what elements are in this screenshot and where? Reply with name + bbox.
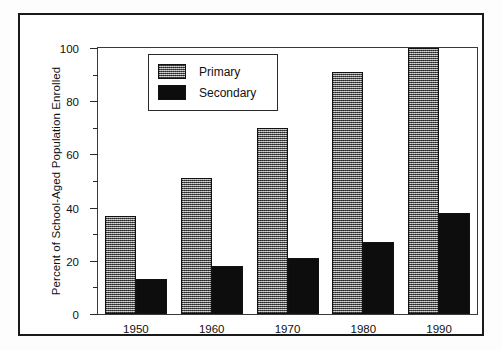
- bar-primary-1990: [408, 48, 439, 314]
- y-tick-40: 40: [90, 208, 98, 209]
- y-tick-label-0: 0: [73, 309, 79, 321]
- y-tick-60: 60: [90, 154, 98, 155]
- bar-secondary-1980: [363, 242, 394, 314]
- legend-swatch-primary-icon: [158, 64, 186, 79]
- y-tick-20: 20: [90, 261, 98, 262]
- y-tick-label-40: 40: [66, 203, 79, 215]
- x-tick-label-1950: 1950: [123, 323, 149, 335]
- y-tick-label-20: 20: [66, 256, 79, 268]
- y-tick-label-100: 100: [60, 43, 79, 55]
- y-tick-label-80: 80: [66, 96, 79, 108]
- y-tick-80: 80: [90, 101, 98, 102]
- x-tick-label-1990: 1990: [426, 323, 452, 335]
- bar-group-1980: [332, 48, 394, 314]
- bar-primary-1980: [332, 72, 363, 314]
- plot-area: 020406080100 19501960197019801990 Primar…: [97, 47, 478, 315]
- bar-secondary-1950: [136, 279, 167, 314]
- legend-item-primary: Primary: [158, 61, 269, 82]
- x-tick-label-1980: 1980: [351, 323, 377, 335]
- bar-primary-1960: [181, 178, 212, 314]
- bar-secondary-1990: [439, 213, 470, 314]
- bar-secondary-1960: [212, 266, 243, 314]
- legend-swatch-secondary-icon: [158, 85, 186, 100]
- legend-label-secondary: Secondary: [199, 86, 256, 100]
- y-axis-title: Percent of School-Aged Population Enroll…: [50, 47, 64, 315]
- bar-secondary-1970: [288, 258, 319, 314]
- bar-group-1990: [408, 48, 470, 314]
- figure-border: Percent of School-Aged Population Enroll…: [18, 13, 484, 336]
- legend-item-secondary: Secondary: [158, 82, 269, 103]
- y-tick-0: 0: [90, 314, 98, 315]
- bar-primary-1950: [105, 216, 136, 314]
- x-tick-label-1970: 1970: [275, 323, 301, 335]
- x-tick-label-1960: 1960: [199, 323, 225, 335]
- y-tick-100: 100: [90, 48, 98, 49]
- y-tick-label-60: 60: [66, 149, 79, 161]
- legend-label-primary: Primary: [199, 65, 240, 79]
- chart-legend: Primary Secondary: [148, 54, 278, 111]
- bar-primary-1970: [257, 128, 288, 314]
